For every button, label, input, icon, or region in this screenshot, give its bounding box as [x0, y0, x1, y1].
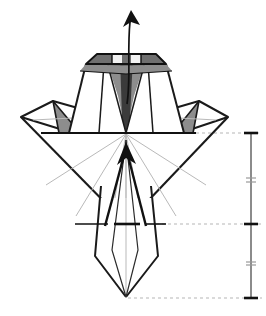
cap-center-white-left	[112, 55, 122, 64]
cap-center-white-right	[131, 55, 141, 64]
origami-diagram-canvas	[0, 0, 266, 316]
origami-diagram-figure	[0, 0, 266, 316]
top-cap-group	[80, 54, 172, 74]
